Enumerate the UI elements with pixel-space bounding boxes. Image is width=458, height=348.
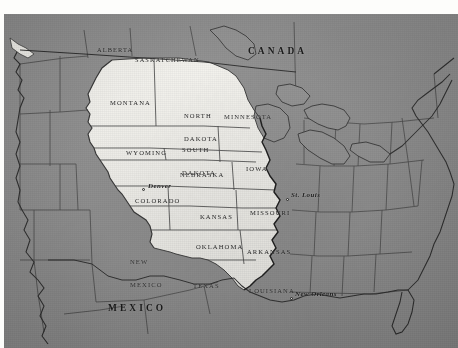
state-label-new-mexico-line2: MEXICO bbox=[130, 281, 163, 289]
province-label-alberta: ALBERTA bbox=[97, 47, 133, 54]
state-label-colorado: COLORADO bbox=[135, 198, 180, 205]
city-label-denver: Denver bbox=[148, 183, 171, 190]
state-label-louisiana: LOUISIANA bbox=[249, 288, 295, 295]
state-label-south-dakota-line1: SOUTH bbox=[182, 146, 216, 154]
state-label-iowa: IOWA bbox=[246, 166, 268, 173]
city-marker-denver bbox=[142, 188, 145, 191]
map-plate: CANADA MEXICO ALBERTA SASKATCHEWAN MONTA… bbox=[4, 14, 458, 348]
state-label-oklahoma: OKLAHOMA bbox=[196, 244, 243, 251]
state-label-south-dakota: SOUTH DAKOTA bbox=[182, 131, 216, 192]
state-label-minnesota: MINNESOTA bbox=[224, 114, 272, 121]
state-label-arkansas: ARKANSAS bbox=[247, 249, 291, 256]
state-label-kansas: KANSAS bbox=[200, 214, 233, 221]
map-figure: CANADA MEXICO ALBERTA SASKATCHEWAN MONTA… bbox=[0, 0, 458, 348]
state-label-new-mexico: NEW MEXICO bbox=[130, 243, 163, 304]
country-label-canada: CANADA bbox=[248, 47, 307, 57]
state-label-montana: MONTANA bbox=[110, 100, 151, 107]
city-label-new-orleans: New Orleans bbox=[295, 291, 337, 298]
city-marker-new-orleans bbox=[290, 297, 293, 300]
province-label-saskatchewan: SASKATCHEWAN bbox=[135, 57, 200, 64]
state-label-nebraska: NEBRASKA bbox=[180, 172, 224, 179]
city-marker-st-louis bbox=[286, 198, 289, 201]
state-label-new-mexico-line1: NEW bbox=[130, 258, 163, 266]
city-label-st-louis: St. Louis bbox=[291, 192, 320, 199]
state-label-missouri: MISSOURI bbox=[250, 210, 290, 217]
state-label-texas: TEXAS bbox=[193, 283, 220, 290]
map-graphic bbox=[4, 14, 458, 348]
state-label-north-dakota-line1: NORTH bbox=[184, 112, 218, 120]
state-label-wyoming: WYOMING bbox=[126, 150, 167, 157]
country-label-mexico: MEXICO bbox=[108, 304, 166, 314]
